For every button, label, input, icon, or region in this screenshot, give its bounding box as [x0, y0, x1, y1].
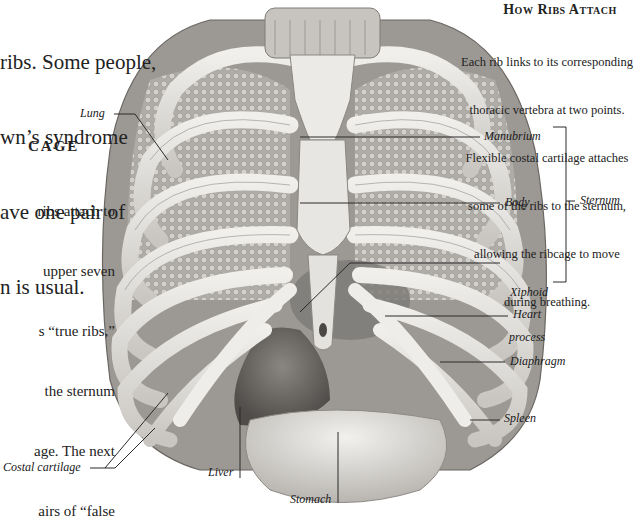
- ribcage-line: ribs attach to: [0, 201, 115, 221]
- label-heart: Heart: [513, 307, 541, 322]
- ribcage-heading: CAGE: [28, 138, 79, 155]
- ribcage-line: airs of “false: [0, 501, 115, 521]
- label-liver: Liver: [208, 465, 233, 480]
- label-stomach: Stomach: [290, 492, 331, 507]
- ribcage-line: s “true ribs,”: [0, 321, 115, 341]
- sidebar-line: thoracic vertebra at two points.: [452, 102, 642, 118]
- label-spleen: Spleen: [504, 411, 536, 426]
- sidebar-line: Flexible costal cartilage attaches: [452, 150, 642, 166]
- label-lung: Lung: [80, 106, 105, 121]
- ribcage-line: the sternum: [0, 381, 115, 401]
- label-xiphoid-line1: Xiphoid: [510, 285, 548, 300]
- label-xiphoid-line2: process: [509, 330, 548, 345]
- intro-line: ribs. Some people,: [0, 50, 200, 75]
- ribcage-line: age. The next: [0, 441, 115, 461]
- sidebar-line: Each rib links to its corresponding: [452, 54, 642, 70]
- how-ribs-attach-heading: How Ribs Attach: [478, 2, 642, 18]
- label-body: Body: [505, 195, 530, 210]
- label-diaphragm: Diaphragm: [510, 354, 565, 369]
- label-costal-cartilage: Costal cartilage: [3, 460, 81, 475]
- label-sternum: Sternum: [580, 193, 620, 208]
- ribcage-line: upper seven: [0, 261, 115, 281]
- label-manubrium: Manubrium: [484, 129, 541, 144]
